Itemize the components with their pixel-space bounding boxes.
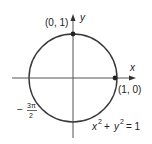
- angle-denominator: 2: [29, 112, 33, 119]
- y-axis-label: y: [79, 12, 86, 23]
- point-1-0: [113, 76, 118, 81]
- equation-y: y: [113, 121, 120, 132]
- circle-equation: x 2 + y 2 = 1: [91, 118, 141, 132]
- equation-x: x: [91, 121, 98, 132]
- x-axis-arrow-icon: [129, 76, 136, 81]
- equation-exp-y: 2: [120, 118, 124, 125]
- equation-exp-x: 2: [98, 118, 102, 125]
- unit-circle-diagram: (0, 1) y x (1, 0) − 3π 2 x 2 + y 2 = 1: [0, 0, 152, 144]
- angle-sign: −: [17, 104, 23, 115]
- point-0-1: [71, 32, 76, 37]
- angle-numerator: 3π: [27, 102, 36, 109]
- equation-equals: = 1: [126, 121, 141, 132]
- equation-plus: +: [104, 121, 110, 132]
- point-label-1-0: (1, 0): [118, 84, 141, 95]
- x-axis-label: x: [129, 62, 136, 73]
- angle-label: − 3π 2: [17, 102, 37, 119]
- point-label-0-1: (0, 1): [45, 17, 68, 28]
- y-axis-arrow-icon: [71, 14, 76, 21]
